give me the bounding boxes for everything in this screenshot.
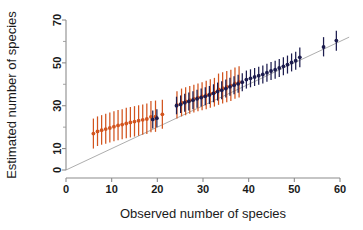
data-point xyxy=(175,104,179,108)
data-point xyxy=(277,66,281,70)
data-point xyxy=(240,80,244,84)
y-tick-label: 0 xyxy=(51,167,63,173)
data-point xyxy=(244,78,248,82)
data-point xyxy=(212,91,216,95)
data-point xyxy=(191,98,195,102)
data-point xyxy=(120,123,124,127)
data-point xyxy=(232,83,236,87)
data-point xyxy=(286,63,290,67)
data-point xyxy=(207,93,211,97)
data-point xyxy=(224,87,228,91)
data-point xyxy=(261,73,265,77)
data-point xyxy=(151,118,155,122)
data-point xyxy=(187,100,191,104)
data-point xyxy=(257,74,261,78)
data-point xyxy=(216,90,220,94)
y-tick-label: 10 xyxy=(51,142,63,154)
data-point xyxy=(116,124,120,128)
data-point xyxy=(112,125,116,129)
x-tick-label: 20 xyxy=(151,183,163,195)
data-point xyxy=(108,126,112,130)
x-axis-title: Observed number of species xyxy=(120,206,287,221)
y-tick-label: 70 xyxy=(51,14,63,26)
data-point xyxy=(220,88,224,92)
data-point xyxy=(236,82,240,86)
data-point xyxy=(96,130,100,134)
data-point xyxy=(322,45,326,49)
data-point xyxy=(100,128,104,132)
y-tick-label: 50 xyxy=(51,57,63,69)
data-point xyxy=(249,76,253,80)
data-point xyxy=(128,121,132,125)
data-point xyxy=(145,117,149,121)
data-point xyxy=(228,85,232,89)
data-point xyxy=(195,97,199,101)
data-point xyxy=(141,118,145,122)
data-point xyxy=(104,127,108,131)
data-point xyxy=(137,119,141,123)
data-point xyxy=(281,64,285,68)
data-point xyxy=(124,122,128,126)
chart-canvas: 010305070 0102030405060 Estimated number… xyxy=(0,0,363,230)
x-tick-label: 30 xyxy=(197,183,209,195)
data-point xyxy=(203,94,207,98)
data-point xyxy=(133,120,137,124)
data-point xyxy=(160,112,164,116)
data-point xyxy=(92,132,96,136)
data-point xyxy=(298,55,302,59)
y-tick-label: 30 xyxy=(51,100,63,112)
data-point xyxy=(155,116,159,120)
data-point xyxy=(179,103,183,107)
x-tick-label: 0 xyxy=(63,183,69,195)
data-point xyxy=(183,101,187,105)
species-estimation-scatter-figure: 010305070 0102030405060 Estimated number… xyxy=(0,0,363,230)
data-point xyxy=(290,61,294,65)
data-point xyxy=(253,75,257,79)
y-axis-title: Estimated number of species xyxy=(4,11,19,179)
x-tick-label: 40 xyxy=(243,183,255,195)
data-point xyxy=(273,68,277,72)
x-tick-label: 60 xyxy=(334,183,346,195)
data-point xyxy=(294,59,298,63)
data-point xyxy=(199,96,203,100)
data-point xyxy=(265,71,269,75)
x-tick-label: 50 xyxy=(288,183,300,195)
x-tick-label: 10 xyxy=(106,183,118,195)
data-point xyxy=(269,69,273,73)
data-point xyxy=(334,39,338,43)
